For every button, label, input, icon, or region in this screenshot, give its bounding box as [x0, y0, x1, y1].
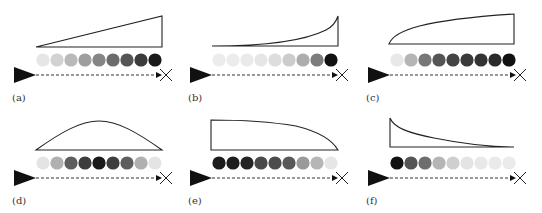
intensity-circle: [120, 53, 133, 66]
intensity-circle: [282, 156, 295, 169]
intensity-circle: [296, 156, 309, 169]
source-triangle-icon: [190, 67, 212, 83]
intensity-circle: [474, 53, 487, 66]
arrow-head-icon: [156, 72, 162, 78]
intensity-circle: [50, 53, 63, 66]
panel-label: (c): [366, 92, 379, 103]
intensity-circle: [106, 156, 119, 169]
intensity-circle: [282, 53, 295, 66]
intensity-circle: [78, 156, 91, 169]
profile-shape: [389, 14, 514, 44]
arrow-head-icon: [332, 72, 338, 78]
intensity-circle: [296, 53, 309, 66]
intensity-circle: [50, 156, 63, 169]
intensity-circle: [36, 53, 49, 66]
panel-b: (b): [176, 0, 356, 106]
intensity-circle: [488, 156, 501, 169]
panel-label: (f): [366, 195, 378, 206]
intensity-circle: [418, 156, 431, 169]
panel-f: (f): [354, 103, 534, 209]
source-triangle-icon: [14, 170, 36, 186]
intensity-circle: [148, 156, 161, 169]
intensity-circle: [474, 156, 487, 169]
intensity-circle: [78, 53, 91, 66]
intensity-circle: [226, 53, 239, 66]
source-triangle-icon: [14, 67, 36, 83]
intensity-circle: [502, 156, 515, 169]
intensity-circles: [36, 53, 161, 66]
profile-shape: [36, 16, 162, 47]
intensity-circle: [240, 156, 253, 169]
intensity-circle: [268, 53, 281, 66]
panel-label: (d): [12, 195, 26, 206]
intensity-circle: [64, 156, 77, 169]
source-triangle-icon: [190, 170, 212, 186]
intensity-circle: [432, 53, 445, 66]
panel-label: (b): [188, 92, 202, 103]
intensity-circle: [134, 156, 147, 169]
intensity-circle: [390, 156, 403, 169]
intensity-circle: [92, 53, 105, 66]
intensity-circle: [460, 156, 473, 169]
arrow-head-icon: [510, 175, 516, 181]
intensity-circle: [460, 53, 473, 66]
intensity-circle: [310, 156, 323, 169]
intensity-circles: [212, 53, 337, 66]
intensity-circle: [254, 53, 267, 66]
intensity-circle: [268, 156, 281, 169]
intensity-circle: [148, 53, 161, 66]
profile-shape: [211, 120, 338, 150]
intensity-circle: [324, 156, 337, 169]
intensity-circle: [404, 156, 417, 169]
intensity-circle: [502, 53, 515, 66]
intensity-circle: [134, 53, 147, 66]
intensity-circles: [212, 156, 337, 169]
intensity-circle: [226, 156, 239, 169]
intensity-circle: [212, 53, 225, 66]
intensity-circles: [36, 156, 161, 169]
panel-d: (d): [0, 103, 180, 209]
intensity-circle: [488, 53, 501, 66]
intensity-circle: [106, 53, 119, 66]
intensity-circle: [432, 156, 445, 169]
profile-shape: [36, 121, 162, 150]
profile-shape: [390, 118, 514, 147]
profile-shape: [212, 16, 338, 46]
intensity-circle: [212, 156, 225, 169]
intensity-circle: [254, 156, 267, 169]
intensity-circle: [446, 156, 459, 169]
panel-label: (e): [188, 195, 202, 206]
panel-a: (a): [0, 0, 180, 106]
panel-c: (c): [354, 0, 534, 106]
intensity-circle: [240, 53, 253, 66]
intensity-circle: [310, 53, 323, 66]
panel-label: (a): [12, 92, 26, 103]
intensity-circle: [64, 53, 77, 66]
panel-e: (e): [176, 103, 356, 209]
arrow-head-icon: [332, 175, 338, 181]
intensity-circle: [390, 53, 403, 66]
intensity-circles: [390, 53, 515, 66]
intensity-circle: [404, 53, 417, 66]
source-triangle-icon: [368, 170, 390, 186]
intensity-circle: [324, 53, 337, 66]
intensity-circles: [390, 156, 515, 169]
intensity-circle: [120, 156, 133, 169]
intensity-circle: [92, 156, 105, 169]
arrow-head-icon: [510, 72, 516, 78]
intensity-circle: [446, 53, 459, 66]
source-triangle-icon: [368, 67, 390, 83]
intensity-circle: [36, 156, 49, 169]
intensity-circle: [418, 53, 431, 66]
arrow-head-icon: [156, 175, 162, 181]
